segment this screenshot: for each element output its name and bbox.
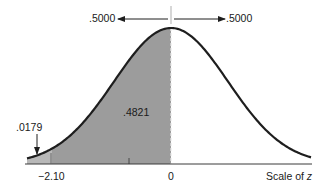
axis-variable-z: z	[307, 170, 312, 182]
axis-title: Scale of z	[266, 171, 312, 182]
middle-area-label: .4821	[123, 107, 149, 118]
normal-distribution-chart	[0, 0, 331, 189]
tick-label-neg-2-10: −2.10	[38, 171, 65, 182]
right-half-area-label: .5000	[226, 13, 252, 24]
left-half-area-label: .5000	[89, 13, 115, 24]
shaded-area-middle	[51, 28, 171, 164]
tail-area-label: .0179	[16, 122, 42, 133]
tick-label-zero: 0	[168, 171, 174, 182]
